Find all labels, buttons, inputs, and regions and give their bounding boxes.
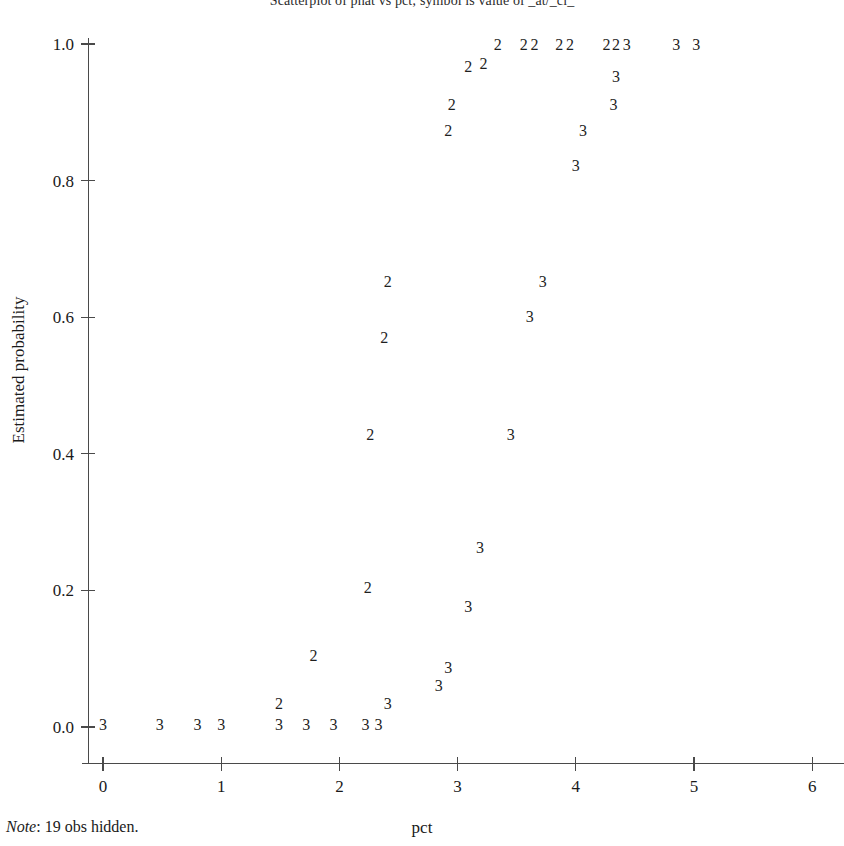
data-marker-3: 3 [153, 717, 167, 733]
y-tick-label: 0.0 [26, 719, 74, 736]
y-tick-label: 0.8 [26, 173, 74, 190]
x-tick-label: 4 [556, 778, 596, 795]
data-marker-3: 3 [473, 540, 487, 556]
chart-title: Scatterplot of phat vs pct; symbol is va… [0, 0, 844, 9]
data-marker-2: 2 [377, 330, 391, 346]
data-marker-3: 3 [299, 717, 313, 733]
x-tick-mark [457, 757, 458, 771]
y-axis-line [88, 38, 89, 764]
x-tick-mark [102, 757, 103, 771]
y-tick-mark [81, 43, 95, 44]
data-marker-2: 2 [445, 97, 459, 113]
data-marker-2: 2 [461, 59, 475, 75]
data-marker-3: 3 [432, 678, 446, 694]
scatter-plot-figure: Scatterplot of phat vs pct; symbol is va… [0, 0, 844, 846]
y-tick-label: 0.4 [26, 446, 74, 463]
data-marker-2: 2 [563, 37, 577, 53]
y-tick-mark [81, 180, 95, 181]
x-tick-label: 3 [438, 778, 478, 795]
chart-note: Note: 19 obs hidden. [6, 818, 138, 836]
x-tick-label: 2 [319, 778, 359, 795]
y-tick-label: 1.0 [26, 36, 74, 53]
data-marker-2: 2 [381, 274, 395, 290]
x-tick-label: 5 [674, 778, 714, 795]
x-tick-label: 0 [83, 778, 123, 795]
data-marker-3: 3 [461, 599, 475, 615]
note-text: : 19 obs hidden. [36, 818, 138, 835]
data-marker-3: 3 [214, 717, 228, 733]
data-marker-3: 3 [669, 37, 683, 53]
data-marker-3: 3 [371, 717, 385, 733]
data-marker-3: 3 [441, 660, 455, 676]
data-marker-3: 3 [272, 717, 286, 733]
data-marker-3: 3 [381, 696, 395, 712]
y-tick-mark [81, 726, 95, 727]
x-tick-mark [339, 757, 340, 771]
note-label: Note [6, 818, 36, 835]
x-axis-line [82, 763, 844, 764]
data-marker-2: 2 [361, 580, 375, 596]
data-marker-3: 3 [620, 37, 634, 53]
y-tick-mark [81, 590, 95, 591]
data-marker-3: 3 [191, 717, 205, 733]
data-marker-2: 2 [491, 37, 505, 53]
y-tick-label: 0.2 [26, 582, 74, 599]
data-marker-3: 3 [689, 37, 703, 53]
data-marker-3: 3 [523, 309, 537, 325]
data-marker-3: 3 [569, 158, 583, 174]
data-marker-2: 2 [477, 56, 491, 72]
x-tick-label: 6 [792, 778, 832, 795]
data-marker-3: 3 [96, 717, 110, 733]
x-tick-label: 1 [201, 778, 241, 795]
x-tick-mark [812, 757, 813, 771]
data-marker-3: 3 [576, 123, 590, 139]
data-marker-3: 3 [358, 717, 372, 733]
data-marker-2: 2 [272, 696, 286, 712]
data-marker-2: 2 [527, 37, 541, 53]
y-tick-label: 0.6 [26, 309, 74, 326]
data-marker-3: 3 [504, 427, 518, 443]
data-marker-3: 3 [536, 274, 550, 290]
x-tick-mark [575, 757, 576, 771]
y-tick-mark [81, 453, 95, 454]
x-tick-mark [221, 757, 222, 771]
data-marker-3: 3 [326, 717, 340, 733]
data-marker-2: 2 [363, 427, 377, 443]
data-marker-3: 3 [607, 97, 621, 113]
data-marker-2: 2 [306, 648, 320, 664]
y-tick-mark [81, 317, 95, 318]
data-marker-3: 3 [609, 69, 623, 85]
x-tick-mark [693, 757, 694, 771]
data-marker-2: 2 [441, 123, 455, 139]
